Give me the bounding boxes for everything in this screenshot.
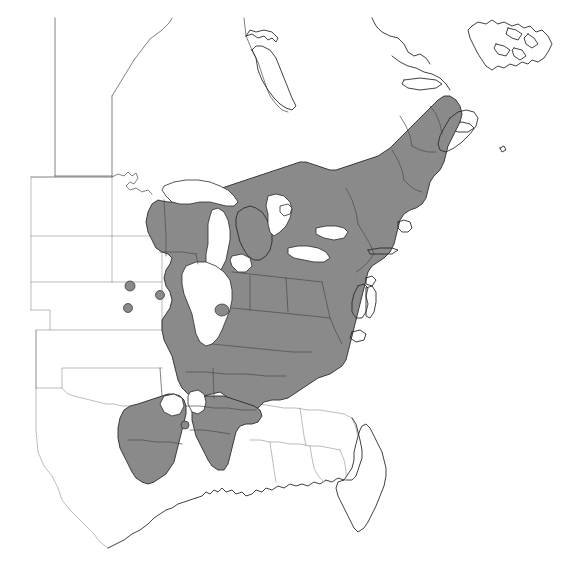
dot-iowa-southwest — [124, 304, 133, 313]
dot-illinois-central — [215, 304, 229, 316]
dot-nebraska-ne — [125, 281, 135, 291]
figure-caption — [36, 567, 516, 579]
distribution-map — [0, 0, 567, 567]
dot-missouri-bootheel — [181, 421, 189, 429]
range-map-figure — [0, 0, 567, 579]
dot-iowa-central — [156, 291, 165, 300]
georgian-bay — [280, 204, 292, 216]
